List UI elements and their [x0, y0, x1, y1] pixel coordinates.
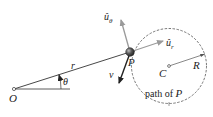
radial-distance-label: r — [71, 61, 75, 71]
path-caption-text: path of — [145, 88, 176, 99]
center-point-icon — [168, 65, 171, 68]
center-label: C — [159, 68, 166, 79]
unit-theta-label: ûθ — [104, 12, 112, 25]
particle-label: P — [128, 57, 135, 68]
angle-arc-icon — [59, 75, 61, 89]
particle-ball-icon — [126, 48, 135, 57]
origin-point-icon — [12, 87, 15, 90]
path-caption: path of P — [145, 88, 182, 99]
radius-arrowhead-icon — [200, 54, 205, 57]
unit-theta-sub: θ — [109, 17, 112, 25]
path-caption-var: P — [176, 87, 183, 99]
velocity-label: v — [109, 70, 113, 80]
unit-r-sub: r — [171, 43, 174, 51]
unit-r-label: ûr — [166, 38, 174, 51]
angle-label: θ — [63, 77, 68, 87]
origin-label: O — [9, 93, 17, 104]
unit-r-arrow-icon — [130, 41, 163, 52]
radius-label: R — [193, 60, 200, 71]
unit-theta-arrow-icon — [121, 20, 130, 52]
